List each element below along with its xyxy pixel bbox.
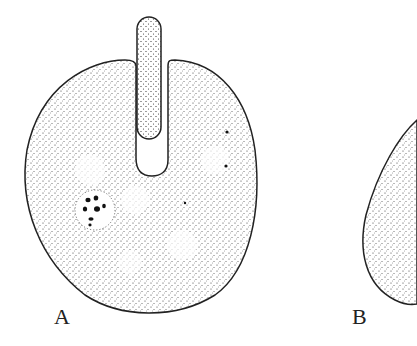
- cell-b: [363, 120, 417, 305]
- tubular-process: [137, 17, 161, 139]
- illustration-figure: A B: [0, 0, 417, 346]
- cell-a: [25, 17, 257, 313]
- panel-label-b: B: [352, 304, 367, 330]
- panel-label-a: A: [54, 304, 70, 330]
- nucleus: [75, 190, 115, 230]
- cell-drawings: [0, 0, 417, 346]
